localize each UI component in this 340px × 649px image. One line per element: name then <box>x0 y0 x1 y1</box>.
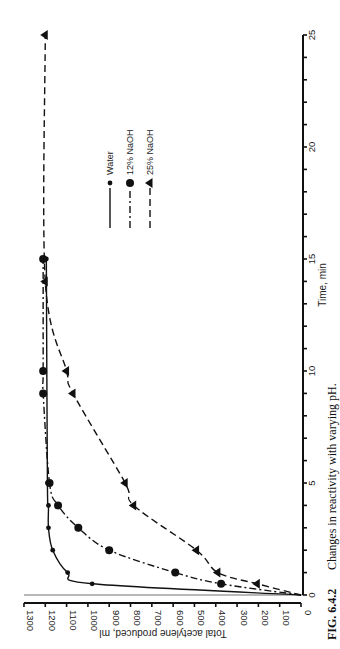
series-25-naoh <box>40 30 301 595</box>
y-tick-label: 400 <box>217 610 228 626</box>
legend-item: 12% NaOH <box>125 129 135 228</box>
y-tick-label: 300 <box>239 610 250 626</box>
data-point-marker <box>126 179 134 187</box>
x-tick-label: 20 <box>306 142 317 153</box>
data-point-marker <box>108 181 113 186</box>
caption-label: FIG. 6.4.2 <box>325 589 339 640</box>
data-point-marker <box>65 570 70 575</box>
legend-item: 25% NaOH <box>145 129 155 228</box>
data-point-marker <box>105 546 113 554</box>
chart-figure: 0100200300400500600700800900100011001200… <box>0 0 340 649</box>
legend-label: 25% NaOH <box>145 129 155 175</box>
y-tick-label: 700 <box>153 610 164 626</box>
series-line <box>43 259 301 595</box>
data-point-marker <box>217 580 225 588</box>
series-line <box>44 35 301 595</box>
data-point-marker <box>39 367 47 375</box>
data-series <box>39 30 301 595</box>
x-axis-label: Time, min <box>317 263 328 307</box>
data-point-marker <box>39 389 47 397</box>
y-tick-label: 1300 <box>25 610 36 631</box>
data-point-marker <box>145 178 153 188</box>
y-tick-label: 1000 <box>89 610 100 631</box>
legend: Water12% NaOH25% NaOH <box>105 129 155 228</box>
x-tick-label: 25 <box>306 30 317 41</box>
y-axis-label: Total acetylene produced, ml <box>99 628 226 639</box>
legend-label: Water <box>105 151 115 175</box>
data-point-marker <box>46 503 51 508</box>
figure-caption: FIG. 6.4.2 Changes in reactivity with va… <box>325 383 339 640</box>
data-point-marker <box>74 524 82 532</box>
x-tick-label: 15 <box>306 254 317 265</box>
data-point-marker <box>68 388 76 398</box>
y-tick-label: 200 <box>260 610 271 626</box>
x-tick-label: 0 <box>306 592 317 597</box>
data-point-marker <box>54 501 62 509</box>
data-point-marker <box>46 479 54 487</box>
x-tick-label: 5 <box>306 480 317 485</box>
y-tick-label: 900 <box>111 610 122 626</box>
data-point-marker <box>252 579 260 589</box>
y-tick-label: 500 <box>196 610 207 626</box>
data-point-marker <box>50 548 55 553</box>
data-point-marker <box>46 525 51 530</box>
legend-label: 12% NaOH <box>125 129 135 175</box>
data-point-marker <box>171 569 179 577</box>
axes: 0100200300400500600700800900100011001200… <box>24 30 317 631</box>
data-point-marker <box>40 30 48 40</box>
y-tick-label: 100 <box>281 610 292 626</box>
y-tick-label: 800 <box>132 610 143 626</box>
x-tick-label: 10 <box>306 366 317 377</box>
y-tick-label: 1100 <box>68 610 79 630</box>
caption-text: Changes in reactivity with varying pH. <box>325 383 339 570</box>
y-tick-label: 600 <box>175 610 186 626</box>
y-tick-label: 1200 <box>47 610 58 631</box>
data-point-marker <box>90 581 95 586</box>
data-point-marker <box>62 366 69 376</box>
y-tick-label: 0 <box>303 610 314 615</box>
data-point-marker <box>40 276 48 286</box>
series-12-naoh <box>39 255 301 595</box>
legend-item: Water <box>105 151 115 228</box>
series-line <box>46 259 301 595</box>
series-water <box>44 257 301 595</box>
data-point-marker <box>39 255 47 263</box>
